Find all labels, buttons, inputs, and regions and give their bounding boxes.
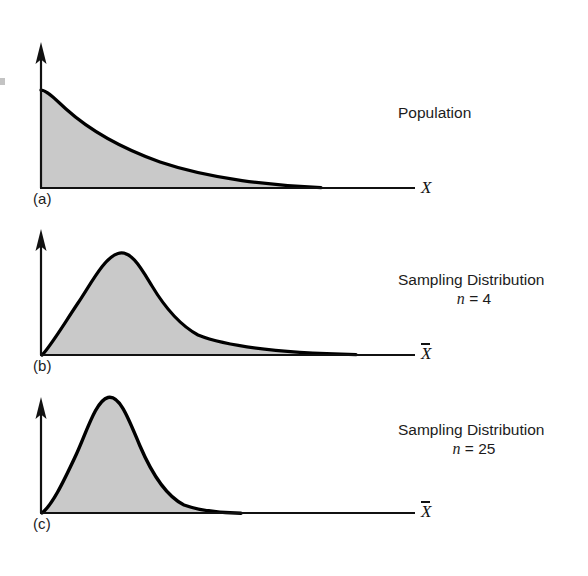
panel-b-n-value: = 4: [469, 290, 491, 307]
panel-c-n-symbol: n: [453, 440, 461, 457]
panel-c-caption-line1: Sampling Distribution: [398, 421, 544, 438]
panel-b-axis-label-xbar: X: [421, 343, 431, 364]
panel-a-curve-fill: [41, 92, 320, 188]
panel-c-plot: [0, 385, 588, 576]
panel-b-caption: Sampling Distribution n = 4: [398, 270, 568, 308]
panel-b-tag: (b): [33, 357, 52, 374]
panel-c-curve-fill: [42, 398, 240, 514]
panel-a-population: (a) X Population: [0, 0, 588, 215]
panel-b-sampling-n4: (b) X Sampling Distribution n = 4: [0, 215, 588, 385]
panel-b-caption-line2: n = 4: [398, 289, 550, 308]
panel-b-n-symbol: n: [457, 290, 465, 307]
panel-b-curve-fill: [42, 253, 355, 355]
panel-c-axis-label-xbar: X: [421, 501, 431, 522]
panel-c-tag: (c): [33, 515, 51, 532]
panel-c-caption-line2: n = 25: [398, 439, 550, 458]
panel-a-axis-label: X: [421, 178, 431, 198]
panel-b-caption-line1: Sampling Distribution: [398, 271, 544, 288]
panel-c-sampling-n25: (c) X Sampling Distribution n = 25: [0, 385, 588, 576]
panel-a-tag: (a): [33, 190, 52, 207]
panel-a-caption-line1: Population: [398, 104, 471, 121]
panel-c-n-value: = 25: [465, 440, 496, 457]
panel-a-caption: Population: [398, 103, 558, 122]
panel-c-caption: Sampling Distribution n = 25: [398, 420, 568, 458]
panel-b-axis-label: X: [421, 343, 431, 364]
panel-c-axis-label: X: [421, 501, 431, 522]
central-limit-theorem-figure: (a) X Population (b) X Sampling Distribu…: [0, 0, 588, 576]
